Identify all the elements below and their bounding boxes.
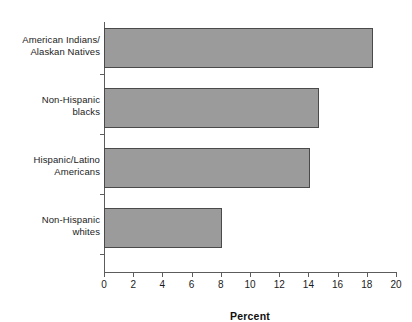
x-axis-tick-label-14: 14 [293,279,323,290]
y-axis-tick-3 [100,254,104,255]
category-label-line-1: Non-Hispanic [0,214,100,226]
bar-0 [104,28,373,68]
category-axis-labels: American Indians/ Alaskan Natives Non-Hi… [0,20,100,280]
bar-3 [104,208,222,248]
bar-2 [104,148,310,188]
x-axis-tick-label-4: 4 [147,279,177,290]
y-axis-tick-0 [100,74,104,75]
x-axis-tick-18 [367,272,368,277]
category-label-line-1: Hispanic/Latino [0,154,100,166]
x-axis-tick-2 [133,272,134,277]
bar-1 [104,88,319,128]
x-axis-tick-0 [104,272,105,277]
y-axis-tick-1 [100,134,104,135]
category-label-american-indians-alaskan-natives: American Indians/ Alaskan Natives [0,34,100,57]
x-axis-tick-label-20: 20 [381,279,411,290]
x-axis-tick-label-8: 8 [206,279,236,290]
x-axis-tick-8 [221,272,222,277]
x-axis-tick-label-6: 6 [177,279,207,290]
category-label-line-1: American Indians/ [0,34,100,46]
category-label-line-2: blacks [0,106,100,118]
x-axis-tick-14 [308,272,309,277]
x-axis-tick-4 [162,272,163,277]
category-label-line-2: Americans [0,166,100,178]
x-axis-tick-6 [192,272,193,277]
category-label-line-1: Non-Hispanic [0,94,100,106]
plot-area: 02468101214161820 Percent [104,22,396,272]
category-label-hispanic-latino-americans: Hispanic/Latino Americans [0,154,100,177]
x-axis-tick-label-2: 2 [118,279,148,290]
x-axis-tick-label-10: 10 [235,279,265,290]
x-axis-tick-label-16: 16 [323,279,353,290]
x-axis-title: Percent [104,310,396,322]
category-label-non-hispanic-whites: Non-Hispanic whites [0,214,100,237]
category-label-line-2: whites [0,226,100,238]
y-axis-tick-2 [100,194,104,195]
x-axis-tick-10 [250,272,251,277]
x-axis-tick-label-18: 18 [352,279,382,290]
category-label-non-hispanic-blacks: Non-Hispanic blacks [0,94,100,117]
x-axis-tick-16 [338,272,339,277]
category-label-line-2: Alaskan Natives [0,46,100,58]
x-axis-tick-label-0: 0 [89,279,119,290]
x-axis-tick-12 [279,272,280,277]
x-axis-tick-label-12: 12 [264,279,294,290]
x-axis-tick-20 [396,272,397,277]
